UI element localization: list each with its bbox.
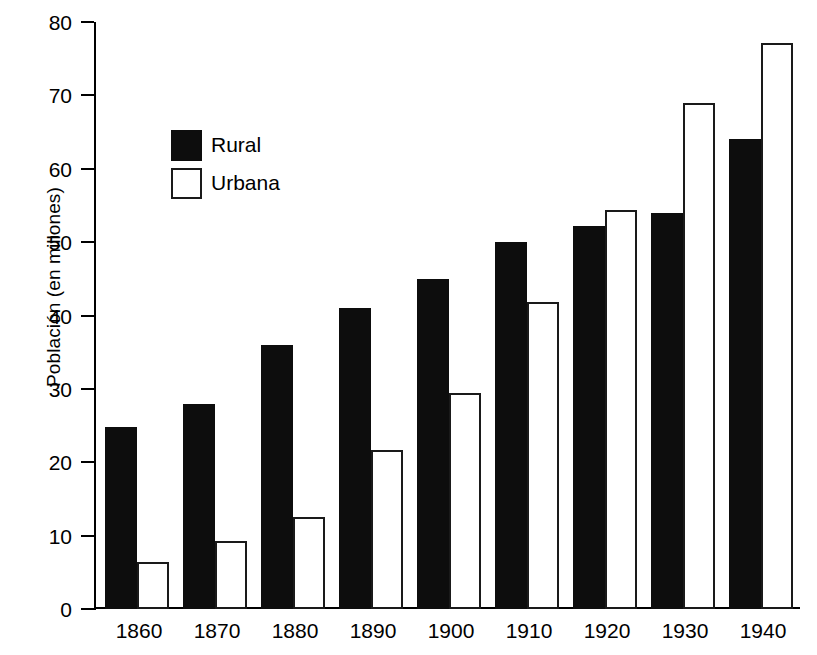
y-axis-tick: 10: [81, 535, 94, 537]
bar-urbana-1910: [527, 302, 559, 609]
y-axis-tick-label: 40: [49, 305, 72, 326]
bar-rural-1920: [573, 226, 605, 609]
bar-urbana-1880: [293, 517, 325, 609]
bar-urbana-1860: [137, 562, 169, 609]
filled-square-icon: [171, 130, 202, 161]
bar-group: [328, 22, 406, 609]
bar-group: [484, 22, 562, 609]
bar-group: [562, 22, 640, 609]
y-axis-tick-label: 20: [49, 452, 72, 473]
chart-page: Población (en millones) 0102030405060708…: [0, 0, 817, 655]
bar-group: [718, 22, 796, 609]
bar-group: [94, 22, 172, 609]
bar-urbana-1870: [215, 541, 247, 609]
legend-item-rural: Rural: [171, 126, 280, 164]
bar-group: [250, 22, 328, 609]
legend-label-rural: Rural: [211, 133, 261, 157]
bar-urbana-1890: [371, 450, 403, 609]
y-axis-tick: 50: [81, 241, 94, 243]
y-axis-tick: 60: [81, 168, 94, 170]
y-axis-tick-label: 60: [49, 158, 72, 179]
bar-rural-1860: [105, 427, 137, 609]
bar-rural-1940: [729, 139, 761, 609]
chart-legend: Rural Urbana: [171, 126, 280, 202]
y-axis-tick-label: 0: [60, 599, 72, 620]
bar-rural-1870: [183, 404, 215, 609]
bar-rural-1930: [651, 213, 683, 609]
hollow-square-icon: [171, 168, 202, 199]
y-axis-tick: 30: [81, 388, 94, 390]
x-axis-tick-label: 1940: [713, 619, 813, 643]
bar-urbana-1920: [605, 210, 637, 609]
y-axis-tick: 40: [81, 315, 94, 317]
bar-rural-1890: [339, 308, 371, 609]
y-axis-tick-label: 50: [49, 232, 72, 253]
y-axis-tick: 80: [81, 21, 94, 23]
legend-label-urbana: Urbana: [211, 171, 280, 195]
bar-rural-1900: [417, 279, 449, 609]
y-axis-tick: 70: [81, 94, 94, 96]
bar-urbana-1900: [449, 393, 481, 609]
y-axis-tick-label: 10: [49, 525, 72, 546]
bar-rural-1880: [261, 345, 293, 609]
y-axis-tick: 0: [81, 608, 94, 610]
bar-group: [172, 22, 250, 609]
bar-group: [640, 22, 718, 609]
y-axis-tick: 20: [81, 461, 94, 463]
y-axis-tick-label: 30: [49, 378, 72, 399]
plot-area: 01020304050607080 1860187018801890190019…: [94, 22, 800, 609]
legend-item-urbana: Urbana: [171, 164, 280, 202]
bar-urbana-1930: [683, 103, 715, 609]
bar-group: [406, 22, 484, 609]
bar-groups: [94, 22, 800, 609]
bar-rural-1910: [495, 242, 527, 609]
bar-urbana-1940: [761, 43, 793, 609]
y-axis-tick-label: 80: [49, 12, 72, 33]
y-axis-tick-label: 70: [49, 85, 72, 106]
